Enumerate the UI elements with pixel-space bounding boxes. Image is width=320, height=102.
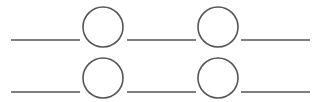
blank-pattern-diagram xyxy=(0,0,320,102)
blank-circle xyxy=(83,58,123,98)
diagram-row-1 xyxy=(11,7,310,47)
blank-circle xyxy=(83,7,123,47)
diagram-row-2 xyxy=(11,58,310,98)
blank-circle xyxy=(198,7,238,47)
blank-circle xyxy=(198,58,238,98)
